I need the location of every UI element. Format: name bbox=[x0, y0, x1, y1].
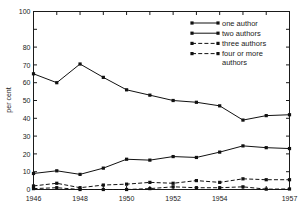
y-tick-label: 30 bbox=[23, 133, 31, 140]
legend-label-wrap: authors bbox=[222, 58, 247, 67]
y-tick-label: 60 bbox=[23, 79, 31, 86]
y-tick-label: 40 bbox=[23, 115, 31, 122]
y-tick-label: 100 bbox=[19, 8, 31, 15]
y-tick-label: 50 bbox=[23, 97, 31, 104]
data-point bbox=[288, 187, 291, 190]
data-point bbox=[195, 156, 198, 159]
data-point bbox=[102, 183, 105, 186]
x-tick-label: 1948 bbox=[72, 195, 88, 202]
data-point bbox=[172, 182, 175, 185]
data-point bbox=[125, 188, 128, 191]
data-point bbox=[55, 186, 58, 189]
data-point bbox=[241, 118, 244, 121]
data-point bbox=[78, 173, 81, 176]
line-chart: 01020304050607080100 1946194819501952195… bbox=[0, 0, 305, 220]
data-point bbox=[32, 72, 35, 75]
data-point bbox=[55, 182, 58, 185]
data-point bbox=[172, 155, 175, 158]
data-point bbox=[32, 187, 35, 190]
x-tick-label: 1954 bbox=[212, 195, 228, 202]
legend-marker bbox=[190, 21, 193, 24]
data-point bbox=[218, 151, 221, 154]
data-point bbox=[195, 101, 198, 104]
data-point bbox=[32, 172, 35, 175]
series-2 bbox=[32, 144, 291, 176]
data-point bbox=[265, 188, 268, 191]
data-point bbox=[218, 181, 221, 184]
data-point bbox=[102, 76, 105, 79]
data-point bbox=[125, 158, 128, 161]
data-point bbox=[148, 94, 151, 97]
data-point bbox=[288, 113, 291, 116]
y-tick-label: 20 bbox=[23, 151, 31, 158]
data-point bbox=[55, 81, 58, 84]
legend-label: two authors bbox=[222, 29, 261, 38]
data-point bbox=[78, 62, 81, 65]
data-point bbox=[148, 159, 151, 162]
data-point bbox=[265, 178, 268, 181]
legend-marker bbox=[190, 52, 193, 55]
data-point bbox=[125, 88, 128, 91]
series-line bbox=[34, 64, 290, 120]
data-point bbox=[172, 185, 175, 188]
x-tick-label: 1946 bbox=[26, 195, 42, 202]
x-tick-label: 1950 bbox=[119, 195, 135, 202]
data-point bbox=[241, 144, 244, 147]
data-point bbox=[241, 177, 244, 180]
data-point bbox=[172, 99, 175, 102]
data-point bbox=[125, 183, 128, 186]
data-point bbox=[265, 114, 268, 117]
data-point bbox=[148, 181, 151, 184]
y-tick-label: 80 bbox=[23, 44, 31, 51]
data-point bbox=[288, 178, 291, 181]
series-line bbox=[34, 179, 290, 188]
legend-label: one author bbox=[222, 19, 258, 28]
y-axis-title: per cent bbox=[5, 87, 13, 112]
legend-marker bbox=[190, 32, 193, 35]
legend-marker bbox=[216, 21, 219, 24]
y-tick-label: 0 bbox=[27, 186, 31, 193]
data-point bbox=[195, 179, 198, 182]
legend-marker bbox=[190, 42, 193, 45]
data-point bbox=[102, 167, 105, 170]
data-point bbox=[265, 146, 268, 149]
legend-marker bbox=[216, 42, 219, 45]
data-point bbox=[195, 186, 198, 189]
legend-marker bbox=[216, 52, 219, 55]
series-layer bbox=[32, 62, 291, 191]
data-point bbox=[78, 188, 81, 191]
data-point bbox=[218, 186, 221, 189]
data-point bbox=[241, 185, 244, 188]
series-line bbox=[34, 146, 290, 174]
y-tick-label: 10 bbox=[23, 168, 31, 175]
legend-marker bbox=[216, 32, 219, 35]
data-point bbox=[288, 147, 291, 150]
chart-figure: 01020304050607080100 1946194819501952195… bbox=[0, 0, 305, 220]
x-tick-label: 1957 bbox=[282, 195, 298, 202]
data-point bbox=[148, 187, 151, 190]
series-1 bbox=[32, 62, 291, 121]
legend-label: three authors bbox=[222, 39, 266, 48]
chart-legend: one authortwo authorsthree authorsfour o… bbox=[190, 19, 266, 67]
x-tick-label: 1952 bbox=[165, 195, 181, 202]
data-point bbox=[102, 188, 105, 191]
data-point bbox=[218, 104, 221, 107]
y-tick-label: 70 bbox=[23, 62, 31, 69]
data-point bbox=[55, 169, 58, 172]
